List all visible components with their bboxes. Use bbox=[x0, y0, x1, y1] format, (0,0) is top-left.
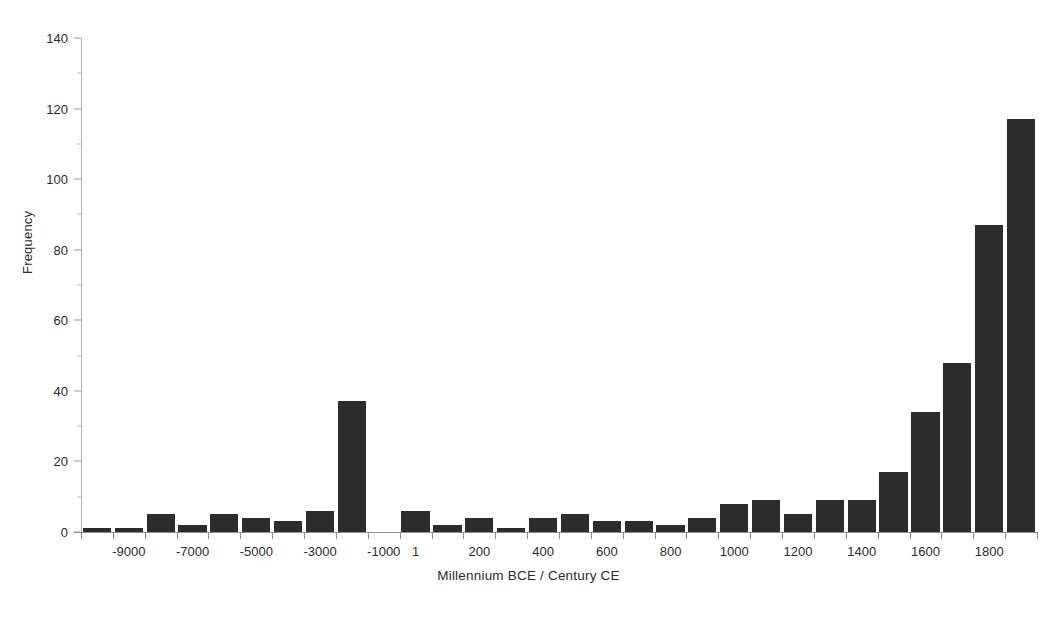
bar bbox=[593, 521, 621, 532]
x-tick-mark bbox=[81, 532, 82, 539]
y-tick-mark bbox=[74, 320, 81, 321]
bar bbox=[210, 514, 238, 532]
x-tick-label: 400 bbox=[532, 544, 554, 559]
y-tick-label: 80 bbox=[21, 242, 81, 257]
x-tick-mark bbox=[782, 532, 783, 539]
x-tick-mark bbox=[591, 532, 592, 539]
y-tick-mark bbox=[74, 249, 81, 250]
x-tick-mark bbox=[686, 532, 687, 539]
y-tick-label: 40 bbox=[21, 383, 81, 398]
bar bbox=[848, 500, 876, 532]
x-tick-mark bbox=[718, 532, 719, 539]
x-tick-mark bbox=[177, 532, 178, 539]
y-tick-mark bbox=[74, 461, 81, 462]
x-tick-label: 600 bbox=[596, 544, 618, 559]
bar bbox=[147, 514, 175, 532]
x-tick-label: 1200 bbox=[784, 544, 813, 559]
bar bbox=[1007, 119, 1035, 532]
x-tick-label: 1 bbox=[412, 544, 419, 559]
bar bbox=[433, 525, 461, 532]
bar bbox=[688, 518, 716, 532]
y-tick-mark bbox=[74, 108, 81, 109]
x-tick-mark bbox=[400, 532, 401, 539]
x-tick-mark bbox=[145, 532, 146, 539]
bar bbox=[943, 363, 971, 532]
y-tick-label: 140 bbox=[21, 31, 81, 46]
y-tick-mark bbox=[74, 179, 81, 180]
x-tick-mark bbox=[655, 532, 656, 539]
y-tick-mark bbox=[74, 390, 81, 391]
x-tick-mark bbox=[878, 532, 879, 539]
x-tick-mark bbox=[846, 532, 847, 539]
x-tick-label: 1800 bbox=[975, 544, 1004, 559]
y-tick-mark bbox=[74, 532, 81, 533]
x-tick-label: -3000 bbox=[303, 544, 336, 559]
bar bbox=[911, 412, 939, 532]
y-tick-label: 100 bbox=[21, 172, 81, 187]
x-tick-mark bbox=[463, 532, 464, 539]
bar bbox=[752, 500, 780, 532]
x-tick-label: -1000 bbox=[367, 544, 400, 559]
bar bbox=[879, 472, 907, 532]
x-tick-mark bbox=[973, 532, 974, 539]
x-tick-mark bbox=[272, 532, 273, 539]
x-tick-mark bbox=[208, 532, 209, 539]
bar bbox=[83, 528, 111, 532]
x-axis-label: Millennium BCE / Century CE bbox=[0, 568, 1057, 583]
bar bbox=[529, 518, 557, 532]
y-tick-label: 0 bbox=[21, 525, 81, 540]
bar bbox=[115, 528, 143, 532]
x-axis-spine bbox=[74, 532, 1037, 533]
x-tick-mark bbox=[941, 532, 942, 539]
bar bbox=[625, 521, 653, 532]
bar-chart: Frequency 020406080100120140 -9000-7000-… bbox=[0, 0, 1057, 618]
x-tick-label: 1400 bbox=[847, 544, 876, 559]
plot-area: 020406080100120140 -9000-7000-5000-3000-… bbox=[81, 38, 1037, 532]
bar bbox=[497, 528, 525, 532]
bar bbox=[816, 500, 844, 532]
x-tick-mark bbox=[1037, 532, 1038, 539]
x-tick-mark bbox=[910, 532, 911, 539]
x-tick-label: 200 bbox=[468, 544, 490, 559]
x-tick-mark bbox=[495, 532, 496, 539]
y-tick-mark bbox=[74, 38, 81, 39]
y-tick-label: 20 bbox=[21, 454, 81, 469]
x-tick-label: 1000 bbox=[720, 544, 749, 559]
x-tick-label: -9000 bbox=[112, 544, 145, 559]
x-tick-mark bbox=[750, 532, 751, 539]
x-tick-label: -7000 bbox=[176, 544, 209, 559]
x-tick-mark bbox=[432, 532, 433, 539]
bar bbox=[561, 514, 589, 532]
bar bbox=[401, 511, 429, 532]
x-tick-mark bbox=[304, 532, 305, 539]
x-tick-mark bbox=[527, 532, 528, 539]
bar bbox=[784, 514, 812, 532]
bar bbox=[274, 521, 302, 532]
bar bbox=[338, 401, 366, 532]
x-tick-mark bbox=[240, 532, 241, 539]
y-tick-label: 60 bbox=[21, 313, 81, 328]
x-tick-label: 1600 bbox=[911, 544, 940, 559]
bar bbox=[242, 518, 270, 532]
bar bbox=[975, 225, 1003, 532]
y-tick-label: 120 bbox=[21, 101, 81, 116]
bar-series bbox=[81, 38, 1037, 532]
x-tick-mark bbox=[1005, 532, 1006, 539]
x-tick-mark bbox=[559, 532, 560, 539]
x-tick-mark bbox=[368, 532, 369, 539]
bar bbox=[720, 504, 748, 532]
x-tick-label: -5000 bbox=[240, 544, 273, 559]
x-tick-mark bbox=[336, 532, 337, 539]
x-tick-mark bbox=[814, 532, 815, 539]
bar bbox=[306, 511, 334, 532]
bar bbox=[465, 518, 493, 532]
bar bbox=[656, 525, 684, 532]
bar bbox=[178, 525, 206, 532]
x-tick-label: 800 bbox=[660, 544, 682, 559]
x-tick-mark bbox=[623, 532, 624, 539]
x-tick-mark bbox=[113, 532, 114, 539]
